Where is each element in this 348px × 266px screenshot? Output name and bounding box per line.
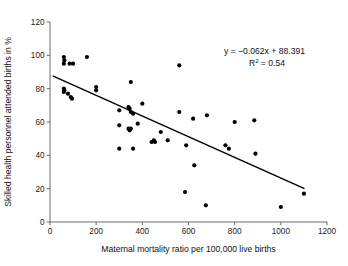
data-point (253, 152, 257, 156)
data-point (140, 102, 144, 106)
y-tick-label: 40 (35, 151, 45, 160)
data-point (204, 203, 208, 207)
plot-area: 020406080100120 020040060080010001200 Ma… (0, 0, 348, 266)
data-point (66, 92, 70, 96)
data-point (279, 205, 283, 209)
y-tick-label: 100 (31, 51, 45, 60)
data-point (223, 143, 227, 147)
x-tick-label: 400 (135, 227, 149, 236)
x-tick-label: 1000 (272, 227, 291, 236)
y-axis-title: Skilled health personnel attended births… (3, 37, 13, 207)
data-point (227, 147, 231, 151)
data-point (117, 147, 121, 151)
data-point (166, 138, 170, 142)
data-point (183, 190, 187, 194)
data-point (129, 127, 133, 131)
x-tick-label: 1200 (318, 227, 337, 236)
data-point (70, 97, 74, 101)
y-tick-label: 0 (40, 218, 45, 227)
x-axis-title: Maternal mortality ratio per 100,000 liv… (101, 244, 275, 254)
x-tick-label: 0 (48, 227, 53, 236)
data-point (62, 90, 66, 94)
data-point (177, 63, 181, 67)
data-point (129, 80, 133, 84)
data-point (252, 118, 256, 122)
x-axis: 020040060080010001200 (48, 222, 337, 236)
data-point (191, 117, 195, 121)
data-point (192, 163, 196, 167)
data-point (233, 120, 237, 124)
x-tick-label: 800 (228, 227, 242, 236)
trendline (53, 76, 304, 188)
data-point (136, 122, 140, 126)
data-point (177, 110, 181, 114)
data-point (85, 55, 89, 59)
scatter-chart: 020406080100120 020040060080010001200 Ma… (0, 0, 348, 266)
data-point (184, 143, 188, 147)
data-point (117, 123, 121, 127)
data-point (94, 88, 98, 92)
y-tick-label: 20 (35, 185, 45, 194)
data-point (71, 62, 75, 66)
r-squared-text: R2 = 0.54 (249, 58, 285, 68)
data-point (131, 147, 135, 151)
y-axis: 020406080100120 (31, 18, 50, 227)
data-point (62, 62, 66, 66)
equation-annotation: y = −0.062x + 88.391R2 = 0.54 (224, 46, 305, 68)
regression-line (53, 76, 304, 188)
y-tick-label: 60 (35, 118, 45, 127)
x-tick-label: 200 (89, 227, 103, 236)
x-tick-label: 600 (182, 227, 196, 236)
y-tick-label: 120 (31, 18, 45, 27)
data-point (153, 140, 157, 144)
y-tick-label: 80 (35, 85, 45, 94)
data-point (159, 130, 163, 134)
data-point (117, 108, 121, 112)
equation-text: y = −0.062x + 88.391 (224, 46, 305, 56)
data-point (205, 113, 209, 117)
data-point (302, 192, 306, 196)
data-points (62, 55, 306, 209)
